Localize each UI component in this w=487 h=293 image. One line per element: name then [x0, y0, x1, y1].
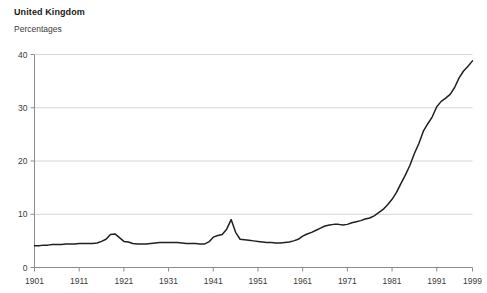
line-chart-plot: 010203040 190119111921193119411951196119… [0, 0, 487, 293]
y-axis [31, 55, 35, 268]
gridlines [35, 55, 473, 215]
x-tick-label: 1921 [114, 276, 133, 286]
y-tick-label: 30 [18, 103, 28, 113]
x-tick-label: 1911 [70, 276, 89, 286]
y-tick-label: 0 [23, 263, 28, 273]
x-tick-label: 1971 [338, 276, 357, 286]
y-tick-label: 10 [18, 209, 28, 219]
x-tick-label: 1991 [427, 276, 446, 286]
x-tick-label: 1931 [159, 276, 178, 286]
x-axis [35, 268, 473, 272]
y-axis-tick-labels: 010203040 [18, 50, 28, 273]
y-tick-label: 20 [18, 156, 28, 166]
x-tick-label: 1951 [249, 276, 268, 286]
x-tick-label: 1999 [463, 276, 482, 286]
x-tick-label: 1901 [25, 276, 44, 286]
x-tick-label: 1981 [383, 276, 402, 286]
x-tick-label: 1961 [293, 276, 312, 286]
x-axis-tick-labels: 1901191119211931194119511961197119811991… [25, 276, 482, 286]
data-series-line [35, 61, 473, 246]
chart-container: United Kingdom Percentages 010203040 190… [0, 0, 487, 293]
series-path [35, 61, 473, 246]
y-tick-label: 40 [18, 50, 28, 60]
x-tick-label: 1941 [204, 276, 223, 286]
